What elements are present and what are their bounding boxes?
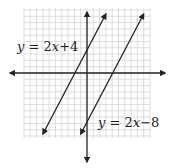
- line1-label: y = 2x+4: [16, 39, 78, 54]
- coordinate-graph: y = 2x+4 y = 2x−8: [0, 0, 178, 168]
- line2-label: y = 2x−8: [97, 115, 159, 130]
